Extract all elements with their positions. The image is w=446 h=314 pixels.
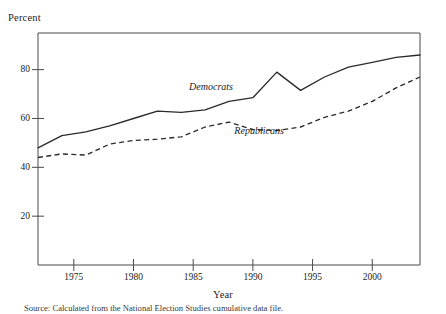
- series-line-democrats: [38, 55, 420, 148]
- x-tick-label-1985: 1985: [173, 272, 213, 282]
- x-tick-label-1980: 1980: [114, 272, 154, 282]
- axis-frame: [38, 33, 420, 265]
- y-axis-title: Percent: [8, 12, 41, 23]
- series-label-republicans: Republicans: [234, 125, 283, 136]
- x-axis-title: Year: [0, 289, 446, 300]
- x-tick-label-1990: 1990: [233, 272, 273, 282]
- y-tick-label-20: 20: [4, 211, 30, 221]
- x-tick-label-1995: 1995: [293, 272, 333, 282]
- y-tick-label-60: 60: [4, 113, 30, 123]
- chart-figure: Percent 20 40 60 80 1975 1980 1985 1990 …: [0, 0, 446, 314]
- series-label-democrats: Democrats: [189, 81, 233, 92]
- x-tick-label-2000: 2000: [352, 272, 392, 282]
- source-note: Source: Calculated from the National Ele…: [24, 303, 434, 313]
- y-tick-label-80: 80: [4, 64, 30, 74]
- plot-area: [0, 0, 446, 314]
- x-tick-label-1975: 1975: [54, 272, 94, 282]
- y-tick-label-40: 40: [4, 162, 30, 172]
